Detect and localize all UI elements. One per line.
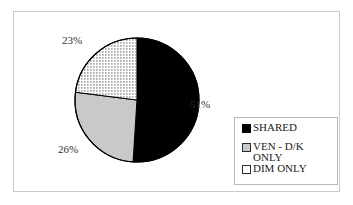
pie-slice-group <box>75 38 199 162</box>
pie-chart-figure: 51% 23% 26% SHARED VEN - D/K ONLY DIM ON… <box>0 0 353 205</box>
pie-slice-ven-d-k-only <box>75 92 137 162</box>
legend-entry-ven: VEN - D/K ONLY <box>242 141 337 164</box>
slice-label-shared: 51% <box>190 98 210 110</box>
chart-legend: SHARED VEN - D/K ONLY DIM ONLY <box>234 117 338 185</box>
solid-black-swatch-icon <box>242 124 251 133</box>
slice-label-ven: 26% <box>58 143 78 155</box>
pie-slice-dim-only <box>75 38 137 100</box>
legend-entry-shared: SHARED <box>242 122 337 134</box>
legend-entry-dim: DIM ONLY <box>242 163 337 175</box>
slice-label-dim: 23% <box>62 34 82 46</box>
dotted-swatch-icon <box>242 165 251 174</box>
legend-label-shared: SHARED <box>253 122 297 134</box>
legend-label-dim: DIM ONLY <box>253 163 307 175</box>
legend-label-ven: VEN - D/K ONLY <box>253 141 304 164</box>
gray-swatch-icon <box>242 143 251 152</box>
